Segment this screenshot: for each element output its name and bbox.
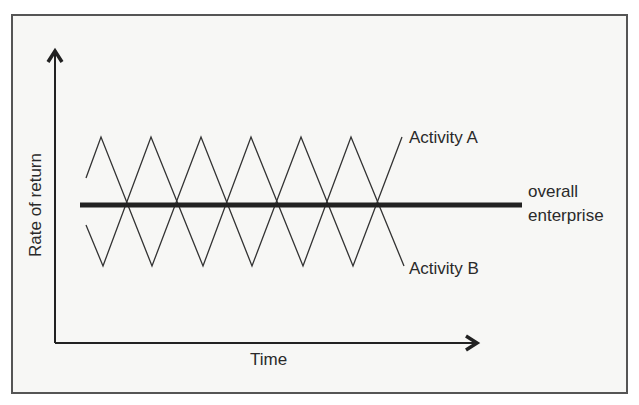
x-axis <box>55 336 477 350</box>
y-axis-label: Rate of return <box>27 153 44 257</box>
overall-enterprise-label-line1: overall <box>528 183 578 200</box>
overall-enterprise-label-line2: enterprise <box>528 207 604 224</box>
y-axis <box>48 51 62 343</box>
activity-a-label: Activity A <box>409 129 478 146</box>
x-axis-label: Time <box>250 351 287 368</box>
activity-b-label: Activity B <box>409 260 479 277</box>
diagram-canvas <box>0 0 639 405</box>
